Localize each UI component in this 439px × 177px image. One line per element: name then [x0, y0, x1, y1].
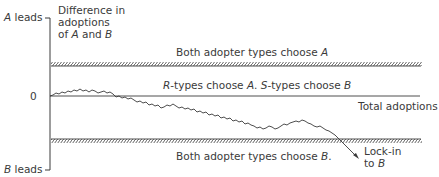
middle-text2: .	[254, 79, 261, 91]
y-title-b: B	[105, 28, 112, 40]
a-leads-text: leads	[11, 11, 42, 23]
y-title-line3: of A and B	[58, 28, 125, 40]
zero-label: 0	[30, 90, 37, 102]
b-leads-text: leads	[11, 163, 42, 175]
lower-boundary-hatch	[51, 139, 422, 143]
middle-b: B	[344, 79, 351, 91]
y-title-line2: adoptions	[58, 16, 125, 28]
lock-in-line1: Lock-in	[364, 145, 401, 157]
region-top-text: Both adopter types choose	[176, 46, 321, 58]
y-axis-title: Difference in adoptions of A and B	[58, 4, 125, 40]
y-title-and: and	[79, 28, 105, 40]
region-middle-label: R-types choose A. S-types choose B	[163, 79, 351, 91]
middle-text1: -types choose	[170, 79, 247, 91]
region-bottom-post: .	[328, 150, 331, 162]
b-leads-label: B leads	[4, 163, 43, 175]
region-top-var: A	[321, 46, 328, 58]
upper-boundary-hatch	[51, 62, 422, 66]
lock-in-to: to	[364, 157, 378, 169]
lock-in-annotation: Lock-in to B	[364, 145, 401, 169]
lock-in-var: B	[378, 157, 385, 169]
middle-text3: -types choose	[267, 79, 344, 91]
y-title-of: of	[58, 28, 71, 40]
region-bottom-text: Both adopter types choose	[176, 150, 321, 162]
x-axis-label: Total adoptions	[358, 100, 438, 112]
lock-in-line2: to B	[364, 157, 401, 169]
a-leads-label: A leads	[4, 11, 42, 23]
region-bottom-label: Both adopter types choose B.	[176, 150, 332, 162]
adoption-path	[50, 89, 356, 156]
y-title-line1: Difference in	[58, 4, 125, 16]
region-top-label: Both adopter types choose A	[176, 46, 328, 58]
y-title-a: A	[71, 28, 78, 40]
